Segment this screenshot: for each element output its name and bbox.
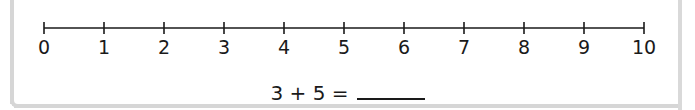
tick-label: 9 — [569, 36, 599, 58]
tick-label: 4 — [269, 36, 299, 58]
tick-label: 0 — [29, 36, 59, 58]
tick-label: 3 — [209, 36, 239, 58]
tick-label: 8 — [509, 36, 539, 58]
tick-label: 6 — [389, 36, 419, 58]
answer-blank[interactable] — [357, 80, 425, 100]
tick-label: 10 — [629, 36, 659, 58]
tick-label: 7 — [449, 36, 479, 58]
equation-text: 3 + 5 = — [270, 81, 348, 105]
number-line — [0, 0, 695, 70]
tick-label: 5 — [329, 36, 359, 58]
equation: 3 + 5 = — [0, 80, 695, 105]
tick-label: 1 — [89, 36, 119, 58]
tick-label: 2 — [149, 36, 179, 58]
